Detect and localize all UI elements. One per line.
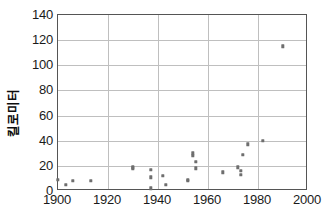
data-point xyxy=(131,167,134,170)
gridline-horizontal xyxy=(58,166,306,167)
gridline-horizontal xyxy=(58,90,306,91)
data-point xyxy=(221,170,224,173)
gridline-vertical xyxy=(258,15,259,189)
data-point xyxy=(56,178,59,181)
gridline-vertical xyxy=(158,15,159,189)
gridline-horizontal xyxy=(58,116,306,117)
x-tick-label: 2000 xyxy=(293,192,321,207)
y-tick-label: 20 xyxy=(5,157,53,172)
x-axis-tick-labels: 190019201940196019802000 xyxy=(57,192,307,212)
y-tick-label: 100 xyxy=(5,57,53,72)
y-tick-label: 140 xyxy=(5,7,53,22)
data-point xyxy=(191,154,194,157)
data-point xyxy=(149,168,152,171)
data-point xyxy=(71,179,74,182)
x-tick-label: 1980 xyxy=(243,192,271,207)
y-axis-tick-labels: 020406080100120140 xyxy=(0,14,53,190)
data-point xyxy=(281,45,284,48)
scatter-chart: 킬로미터 020406080100120140 1900192019401960… xyxy=(0,0,329,224)
y-tick-label: 120 xyxy=(5,32,53,47)
data-point xyxy=(194,167,197,170)
data-point xyxy=(164,183,167,186)
gridline-horizontal xyxy=(58,40,306,41)
y-tick-label: 40 xyxy=(5,132,53,147)
gridline-vertical xyxy=(108,15,109,189)
data-point xyxy=(161,174,164,177)
x-tick-label: 1960 xyxy=(193,192,221,207)
data-point xyxy=(89,179,92,182)
data-point xyxy=(241,153,244,156)
data-point xyxy=(246,143,249,146)
x-tick-label: 1920 xyxy=(93,192,121,207)
gridline-horizontal xyxy=(58,65,306,66)
data-point xyxy=(239,173,242,176)
data-point xyxy=(64,183,67,186)
data-point xyxy=(194,160,197,163)
gridline-vertical xyxy=(208,15,209,189)
plot-area xyxy=(57,14,307,190)
x-tick-label: 1940 xyxy=(143,192,171,207)
gridline-horizontal xyxy=(58,141,306,142)
y-tick-label: 80 xyxy=(5,82,53,97)
data-point xyxy=(149,175,152,178)
x-tick-label: 1900 xyxy=(43,192,71,207)
y-tick-label: 60 xyxy=(5,107,53,122)
data-point xyxy=(149,187,152,190)
data-point xyxy=(261,139,264,142)
